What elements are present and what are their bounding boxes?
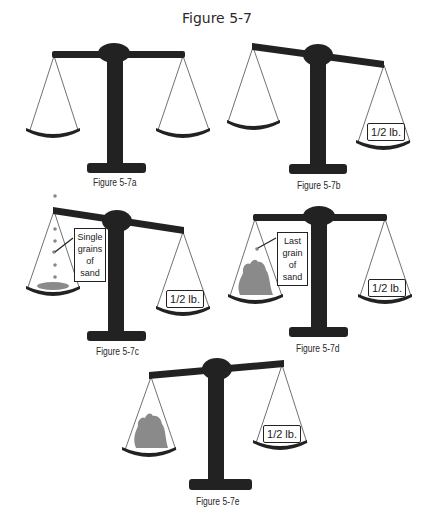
weight-box-c: 1/2 lb. [166, 290, 204, 308]
note-line: grain of [279, 247, 306, 271]
note-line: Last [279, 235, 306, 247]
weight-box-d: 1/2 lb. [368, 279, 406, 297]
annotation-last-grain: Last grain of sand [277, 232, 308, 286]
scale-a [26, 43, 210, 173]
note-line: Single [76, 231, 104, 243]
note-line: sand [76, 267, 104, 279]
note-line: sand [279, 271, 306, 283]
caption-b: Figure 5-7b [297, 180, 340, 191]
scale-c [26, 194, 210, 341]
caption-d: Figure 5-7d [296, 343, 339, 354]
scale-b [227, 43, 410, 174]
scale-d [228, 206, 412, 337]
sand-grains [52, 194, 57, 279]
caption-a: Figure 5-7a [93, 177, 136, 188]
caption-e: Figure 5-7e [196, 496, 239, 507]
weight-box-b: 1/2 lb. [367, 123, 405, 141]
annotation-single-grains: Single grains of sand [74, 228, 106, 282]
note-line: grains of [76, 243, 104, 267]
weight-box-e: 1/2 lb. [263, 425, 301, 443]
balance-scales-illustration [0, 0, 434, 531]
scale-e [122, 358, 307, 490]
caption-c: Figure 5-7c [96, 346, 139, 357]
